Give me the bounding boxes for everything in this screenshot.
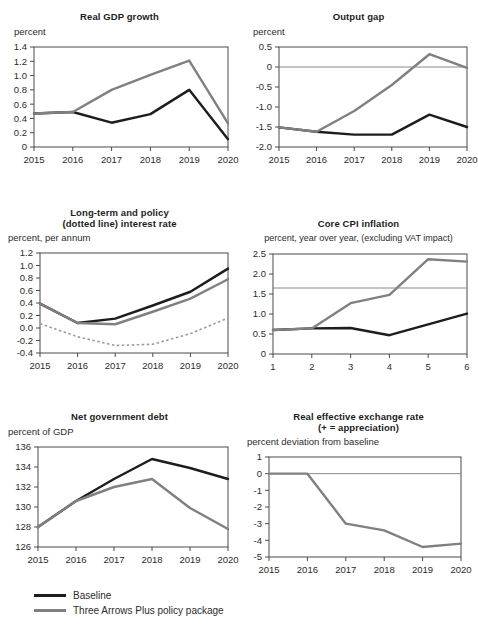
svg-text:2018: 2018 <box>141 554 162 565</box>
svg-text:0.2: 0.2 <box>14 127 27 138</box>
plot-area: 00.51.01.52.02.5123456 <box>239 244 478 392</box>
svg-text:2020: 2020 <box>450 564 471 575</box>
svg-text:2019: 2019 <box>180 360 201 371</box>
svg-text:1.2: 1.2 <box>20 247 33 258</box>
svg-text:2017: 2017 <box>101 154 122 165</box>
legend-item-policy: Three Arrows Plus policy package <box>34 603 224 618</box>
svg-text:0: 0 <box>261 348 266 359</box>
svg-text:2020: 2020 <box>217 360 238 371</box>
svg-text:2018: 2018 <box>381 154 402 165</box>
svg-text:1: 1 <box>270 361 275 372</box>
panel-title: Output gap <box>239 12 478 23</box>
chart-svg: -0.4-0.20.00.20.40.60.81.01.220152016201… <box>0 243 239 391</box>
figure-sheet: Real GDP growth percent 00.20.40.60.81.0… <box>0 0 478 626</box>
plot-area: 00.20.40.60.81.01.21.4201520162017201820… <box>0 37 239 185</box>
svg-text:2016: 2016 <box>306 154 327 165</box>
panel-interest-rate: Long-term and policy (dotted line) inter… <box>0 208 239 391</box>
svg-text:126: 126 <box>15 541 31 552</box>
svg-text:2017: 2017 <box>105 360 126 371</box>
svg-text:130: 130 <box>15 501 31 512</box>
legend-item-baseline: Baseline <box>34 588 224 603</box>
svg-text:-1.5: -1.5 <box>256 121 272 132</box>
svg-text:0: 0 <box>267 61 272 72</box>
panel-axis-units: percent <box>14 26 239 37</box>
legend-swatch-policy-icon <box>34 609 66 612</box>
svg-text:2016: 2016 <box>65 554 86 565</box>
panel-title: Net government debt <box>0 412 239 423</box>
svg-text:2: 2 <box>309 361 314 372</box>
svg-text:2015: 2015 <box>23 154 44 165</box>
svg-text:1.0: 1.0 <box>20 260 33 271</box>
svg-text:-5: -5 <box>254 551 262 562</box>
svg-text:-1.0: -1.0 <box>256 101 272 112</box>
svg-text:2019: 2019 <box>419 154 440 165</box>
panel-title-line2: (+ = appreciation) <box>239 423 478 434</box>
svg-text:2020: 2020 <box>217 554 238 565</box>
panel-axis-units: percent of GDP <box>8 426 239 437</box>
legend-label-policy: Three Arrows Plus policy package <box>73 605 224 617</box>
figure-legend: Baseline Three Arrows Plus policy packag… <box>34 588 224 618</box>
svg-text:2.5: 2.5 <box>253 248 266 259</box>
svg-text:4: 4 <box>387 361 392 372</box>
plot-area: 1261281301321341362015201620172018201920… <box>0 437 239 585</box>
legend-label-baseline: Baseline <box>73 590 111 602</box>
svg-text:1.0: 1.0 <box>253 308 266 319</box>
panel-axis-units: percent, year over year, (excluding VAT … <box>239 233 478 244</box>
svg-text:2016: 2016 <box>297 564 318 575</box>
chart-svg: -5-4-3-2-101201520162017201820192020 <box>239 447 478 595</box>
svg-text:2015: 2015 <box>27 554 48 565</box>
svg-text:2018: 2018 <box>374 564 395 575</box>
svg-text:-2.0: -2.0 <box>256 141 272 152</box>
svg-text:134: 134 <box>15 461 31 472</box>
svg-text:-0.2: -0.2 <box>17 335 33 346</box>
panel-core-cpi-inflation: Core CPI inflation percent, year over ye… <box>239 208 478 392</box>
plot-area: -2.0-1.5-1.0-0.500.520152016201720182019… <box>239 37 478 185</box>
svg-text:1.0: 1.0 <box>14 69 27 80</box>
svg-text:1.2: 1.2 <box>14 55 27 66</box>
svg-text:-2: -2 <box>254 501 262 512</box>
svg-text:2020: 2020 <box>456 154 477 165</box>
panel-net-government-debt: Net government debt percent of GDP 12612… <box>0 412 239 585</box>
chart-svg: -2.0-1.5-1.0-0.500.520152016201720182019… <box>239 37 478 185</box>
panel-title-line2: (dotted line) interest rate <box>0 219 239 230</box>
svg-text:2019: 2019 <box>179 554 200 565</box>
svg-text:0.6: 0.6 <box>14 98 27 109</box>
svg-text:0.5: 0.5 <box>253 328 266 339</box>
svg-text:2017: 2017 <box>344 154 365 165</box>
svg-text:2018: 2018 <box>142 360 163 371</box>
svg-text:132: 132 <box>15 481 31 492</box>
svg-text:0.8: 0.8 <box>14 84 27 95</box>
svg-text:0: 0 <box>22 141 27 152</box>
svg-text:2020: 2020 <box>217 154 238 165</box>
svg-text:0: 0 <box>257 468 262 479</box>
svg-text:0.2: 0.2 <box>20 310 33 321</box>
panel-title-line1: Long-term and policy <box>0 208 239 219</box>
svg-text:2018: 2018 <box>140 154 161 165</box>
svg-text:2016: 2016 <box>67 360 88 371</box>
svg-text:0.8: 0.8 <box>20 272 33 283</box>
panel-title: Core CPI inflation <box>239 219 478 230</box>
svg-text:2015: 2015 <box>29 360 50 371</box>
panel-axis-units: percent <box>253 26 478 37</box>
svg-text:0.4: 0.4 <box>14 112 27 123</box>
svg-text:2016: 2016 <box>62 154 83 165</box>
svg-text:0.4: 0.4 <box>20 297 33 308</box>
panel-title-line1: Real effective exchange rate <box>239 412 478 423</box>
panel-axis-units: percent deviation from baseline <box>247 436 478 447</box>
chart-svg: 1261281301321341362015201620172018201920… <box>0 437 239 585</box>
svg-text:5: 5 <box>426 361 431 372</box>
panel-real-effective-exchange-rate: Real effective exchange rate (+ = apprec… <box>239 412 478 595</box>
svg-text:2019: 2019 <box>412 564 433 575</box>
svg-text:0.6: 0.6 <box>20 285 33 296</box>
svg-text:2015: 2015 <box>258 564 279 575</box>
svg-text:128: 128 <box>15 521 31 532</box>
svg-text:6: 6 <box>464 361 469 372</box>
svg-text:3: 3 <box>348 361 353 372</box>
svg-text:2015: 2015 <box>268 154 289 165</box>
panel-real-gdp-growth: Real GDP growth percent 00.20.40.60.81.0… <box>0 12 239 185</box>
svg-text:136: 136 <box>15 441 31 452</box>
chart-svg: 00.20.40.60.81.01.21.4201520162017201820… <box>0 37 239 185</box>
svg-text:-1: -1 <box>254 485 262 496</box>
panel-axis-units: percent, per annum <box>8 232 239 243</box>
svg-text:-3: -3 <box>254 518 262 529</box>
